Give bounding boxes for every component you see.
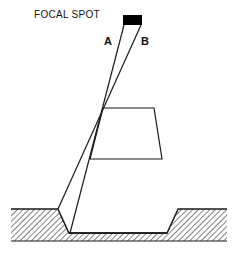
focal-spot-label: FOCAL SPOT	[34, 10, 100, 20]
diagram-canvas: FOCAL SPOT A B	[0, 0, 236, 255]
focal-spot	[123, 15, 142, 25]
ray-b-label: B	[141, 36, 149, 47]
ray-a-label: A	[104, 36, 112, 47]
diagram-svg	[0, 0, 236, 255]
